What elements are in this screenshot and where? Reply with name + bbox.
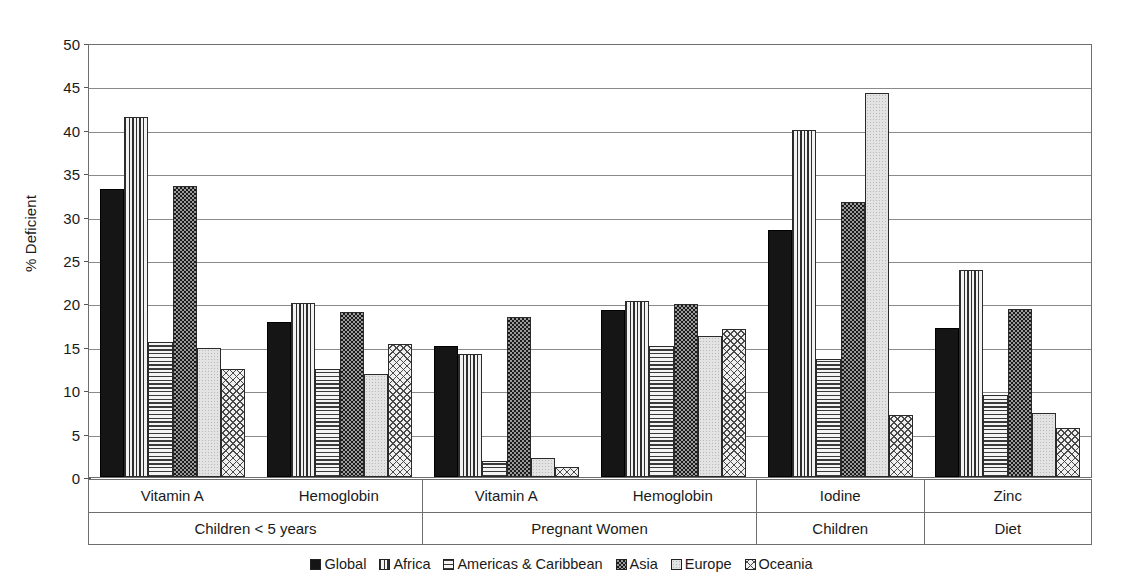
bar[interactable]	[816, 359, 840, 477]
bar-slot	[816, 45, 840, 477]
y-tick-label: 45	[40, 80, 80, 95]
bar-slot	[625, 45, 649, 477]
y-tick-label: 10	[40, 384, 80, 399]
bar[interactable]	[768, 230, 792, 477]
bar[interactable]	[698, 336, 722, 477]
legend-label: Americas & Caribbean	[457, 556, 602, 572]
y-tick-label: 40	[40, 123, 80, 138]
bar[interactable]	[555, 467, 579, 477]
chart-legend: GlobalAfricaAmericas & CaribbeanAsiaEuro…	[0, 556, 1123, 572]
bar[interactable]	[1008, 309, 1032, 477]
bar[interactable]	[792, 130, 816, 477]
legend-label: Europe	[685, 556, 732, 572]
bar-slot	[935, 45, 959, 477]
bar-slot	[434, 45, 458, 477]
bar[interactable]	[1032, 413, 1056, 477]
bar-group	[256, 45, 423, 477]
bar[interactable]	[388, 344, 412, 477]
bar-slot	[388, 45, 412, 477]
bars-layer	[89, 45, 1091, 477]
bar[interactable]	[197, 348, 221, 477]
legend-item[interactable]: Americas & Caribbean	[443, 556, 602, 572]
x-axis-category-label: Zinc	[925, 480, 1092, 512]
y-tick-label: 35	[40, 167, 80, 182]
x-axis-subcategory-row: Zinc	[925, 480, 1092, 512]
y-tick-label: 30	[40, 210, 80, 225]
bar-slot	[315, 45, 339, 477]
bar[interactable]	[865, 93, 889, 477]
x-axis-supergroup: Vitamin AHemoglobinChildren < 5 years	[89, 480, 423, 544]
bar-slot	[531, 45, 555, 477]
bar[interactable]	[315, 369, 339, 478]
bar[interactable]	[340, 312, 364, 477]
bar[interactable]	[531, 458, 555, 477]
x-axis-supergroup: ZincDiet	[925, 480, 1092, 544]
legend-swatch-icon	[379, 559, 390, 570]
bar-slot	[124, 45, 148, 477]
bar[interactable]	[841, 202, 865, 477]
bar-slot	[458, 45, 482, 477]
y-axis-tick-labels: 05101520253035404550	[40, 44, 80, 478]
bar[interactable]	[482, 461, 506, 477]
bar[interactable]	[173, 186, 197, 477]
bar[interactable]	[674, 304, 698, 477]
bar-slot	[983, 45, 1007, 477]
x-axis-supergroup-label: Children	[757, 512, 924, 545]
x-axis-supergroup-label: Children < 5 years	[89, 512, 422, 545]
bar-slot	[507, 45, 531, 477]
bar-slot	[173, 45, 197, 477]
bar[interactable]	[649, 346, 673, 477]
bar[interactable]	[458, 354, 482, 477]
legend-label: Africa	[393, 556, 430, 572]
legend-item[interactable]: Europe	[671, 556, 732, 572]
bar-slot	[555, 45, 579, 477]
bar[interactable]	[1056, 428, 1080, 477]
bar[interactable]	[221, 369, 245, 478]
bar[interactable]	[364, 374, 388, 477]
bar[interactable]	[959, 270, 983, 477]
bar[interactable]	[889, 415, 913, 477]
grouped-bar-chart: % Deficient 05101520253035404550 Vitamin…	[0, 0, 1123, 586]
bar-slot	[601, 45, 625, 477]
bar-slot	[364, 45, 388, 477]
bar-slot	[340, 45, 364, 477]
bar[interactable]	[148, 342, 172, 477]
bar-slot	[267, 45, 291, 477]
y-tick-label: 0	[40, 471, 80, 486]
bar[interactable]	[434, 346, 458, 477]
bar[interactable]	[100, 189, 124, 477]
bar-group	[757, 45, 924, 477]
legend-label: Global	[324, 556, 366, 572]
legend-item[interactable]: Africa	[379, 556, 430, 572]
legend-item[interactable]: Asia	[616, 556, 658, 572]
legend-swatch-icon	[310, 559, 321, 570]
bar[interactable]	[983, 395, 1007, 477]
bar-slot	[959, 45, 983, 477]
bar[interactable]	[935, 328, 959, 477]
legend-item[interactable]: Global	[310, 556, 366, 572]
bar[interactable]	[601, 310, 625, 477]
bar[interactable]	[722, 329, 746, 477]
x-axis-category-label: Hemoglobin	[590, 480, 757, 512]
bar-slot	[698, 45, 722, 477]
bar-slot	[291, 45, 315, 477]
x-axis-subcategory-row: Vitamin AHemoglobin	[89, 480, 422, 512]
bar[interactable]	[124, 117, 148, 477]
bar-group	[924, 45, 1091, 477]
bar-slot	[865, 45, 889, 477]
x-axis-category-label: Hemoglobin	[256, 480, 423, 512]
bar[interactable]	[507, 317, 531, 477]
bar-slot	[100, 45, 124, 477]
legend-label: Oceania	[759, 556, 813, 572]
bar-slot	[792, 45, 816, 477]
legend-swatch-icon	[745, 559, 756, 570]
bar[interactable]	[291, 303, 315, 477]
bar[interactable]	[267, 322, 291, 477]
legend-swatch-icon	[443, 559, 454, 570]
bar[interactable]	[625, 301, 649, 477]
bar-slot	[649, 45, 673, 477]
legend-item[interactable]: Oceania	[745, 556, 813, 572]
y-tick-label: 15	[40, 340, 80, 355]
x-axis-supergroup-label: Diet	[925, 512, 1092, 545]
bar-slot	[148, 45, 172, 477]
